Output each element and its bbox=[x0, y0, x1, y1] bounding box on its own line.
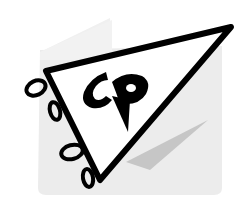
pennant-logo: CP bbox=[0, 0, 246, 207]
pennant-icon bbox=[0, 0, 246, 207]
